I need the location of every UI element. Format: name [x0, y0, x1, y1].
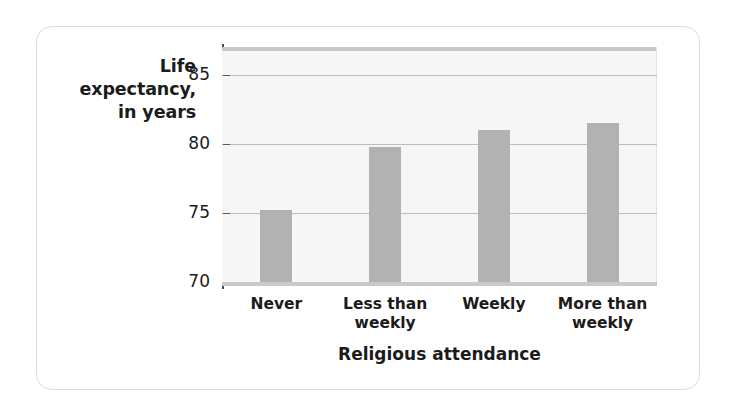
y-tick-mark-80: [223, 144, 230, 146]
plot-right-edge: [656, 47, 657, 286]
plot-area: [222, 47, 657, 286]
x-tick-label-line: More than: [543, 295, 663, 314]
y-tick-label-80: 80: [170, 133, 210, 153]
bar-more-than-weekly: [587, 123, 619, 282]
y-tick-label-70: 70: [170, 271, 210, 291]
y-tick-label-75: 75: [170, 202, 210, 222]
x-tick-label-line: weekly: [325, 314, 445, 333]
bar-weekly: [478, 130, 510, 282]
x-tick-label-line: weekly: [543, 314, 663, 333]
bar-never: [260, 210, 292, 282]
x-tick-label-line: Never: [216, 295, 336, 314]
bar-less-than-weekly: [369, 147, 401, 282]
gridline-85: [222, 75, 657, 76]
y-tick-mark-85: [223, 75, 230, 77]
plot-bottom-rule: [222, 282, 657, 286]
x-axis-title: Religious attendance: [222, 344, 657, 364]
x-tick-label-never: Never: [216, 295, 336, 314]
y-axis-title-line-3: in years: [48, 101, 196, 124]
y-tick-mark-75: [223, 213, 230, 215]
x-tick-label-line: Weekly: [434, 295, 554, 314]
plot-top-rule: [222, 47, 657, 51]
x-tick-label-less-than-weekly: Less thanweekly: [325, 295, 445, 333]
x-tick-label-line: Less than: [325, 295, 445, 314]
y-tick-label-85: 85: [170, 64, 210, 84]
x-tick-label-more-than-weekly: More thanweekly: [543, 295, 663, 333]
x-tick-label-weekly: Weekly: [434, 295, 554, 314]
